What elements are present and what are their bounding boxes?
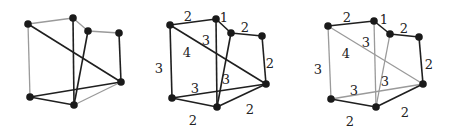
node-f [327, 95, 335, 103]
node-g [70, 101, 78, 109]
edge-af [170, 25, 172, 98]
weight-label-fe: 3 [350, 83, 358, 98]
edge-de [419, 37, 423, 84]
panel-unweighted-graph [24, 14, 125, 109]
weight-label-bc: 1 [220, 10, 228, 25]
node-e [262, 80, 270, 88]
node-c [227, 29, 235, 37]
edge-fg [30, 97, 74, 105]
edge-cg [217, 33, 231, 107]
edge-bg [216, 19, 217, 107]
graph-figure: 21234233322 21234233322 [0, 0, 459, 133]
weight-label-ae: 4 [342, 46, 350, 61]
node-f [168, 94, 176, 102]
weight-label-bg: 3 [202, 33, 210, 48]
edge-cg [376, 34, 390, 107]
edge-bg [374, 21, 376, 107]
node-a [24, 20, 32, 28]
edge-cg [74, 31, 88, 105]
weight-label-de: 2 [266, 56, 274, 71]
weight-label-ab: 2 [184, 9, 192, 24]
edge-fg [172, 98, 217, 107]
node-g [372, 103, 380, 111]
node-a [166, 21, 174, 29]
edges [28, 18, 121, 105]
edge-cd [88, 31, 119, 33]
weight-label-ae: 4 [183, 45, 191, 60]
node-b [69, 14, 77, 22]
weight-label-de: 2 [425, 57, 433, 72]
edge-ab [28, 18, 73, 24]
edge-af [328, 26, 331, 99]
node-e [117, 78, 125, 86]
weight-label-cg: 3 [222, 72, 230, 87]
weight-label-ge: 2 [246, 102, 254, 117]
panel-minimum-spanning-tree: 21234233322 [314, 10, 433, 129]
edge-bg [73, 18, 74, 105]
node-d [115, 29, 123, 37]
weight-label-cg: 3 [381, 74, 389, 89]
edge-ab [170, 19, 216, 25]
edge-af [28, 24, 30, 97]
weight-label-af: 3 [155, 61, 163, 76]
node-b [212, 15, 220, 23]
edge-de [119, 33, 121, 82]
panel-weighted-graph: 21234233322 [155, 9, 274, 128]
weight-label-bc: 1 [380, 12, 388, 27]
weight-label-bg: 3 [362, 35, 370, 50]
node-c [386, 30, 394, 38]
edges [328, 21, 423, 107]
edge-fg [331, 99, 376, 107]
node-a [324, 22, 332, 30]
weight-label-af: 3 [314, 62, 322, 77]
node-c [84, 27, 92, 35]
node-e [419, 80, 427, 88]
edges [170, 19, 266, 107]
weight-label-ge: 2 [401, 105, 409, 120]
weight-label-fg: 2 [189, 113, 197, 128]
weight-label-cd: 2 [241, 20, 249, 35]
weight-label-ab: 2 [343, 10, 351, 25]
weight-label-fe: 3 [191, 81, 199, 96]
node-d [415, 33, 423, 41]
node-b [370, 17, 378, 25]
weight-label-fg: 2 [346, 114, 354, 129]
node-f [26, 93, 34, 101]
node-g [213, 103, 221, 111]
node-d [258, 32, 266, 40]
weight-label-cd: 2 [400, 21, 408, 36]
